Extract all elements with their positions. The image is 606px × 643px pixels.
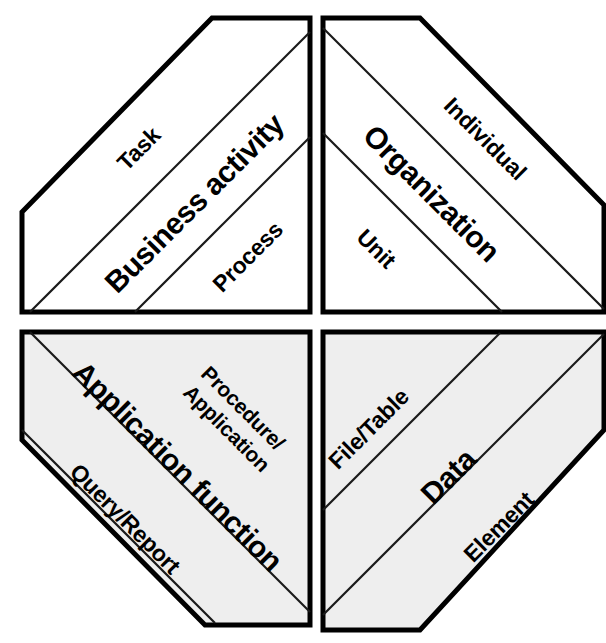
quadrant-application-function-shape xyxy=(22,332,310,625)
quadrant-business-activity[interactable]: Task Business activity Process xyxy=(22,18,310,312)
diagram-canvas: Task Business activity Process Individua… xyxy=(0,0,606,643)
quadrant-business-activity-shape xyxy=(22,18,310,312)
quadrant-framework-diagram: Task Business activity Process Individua… xyxy=(0,0,606,643)
quadrant-application-function[interactable]: Procedure/ Application Application funct… xyxy=(22,332,310,625)
quadrant-organization[interactable]: Individual Organization Unit xyxy=(323,18,604,312)
quadrant-data[interactable]: File/Table Data Element xyxy=(323,332,604,630)
